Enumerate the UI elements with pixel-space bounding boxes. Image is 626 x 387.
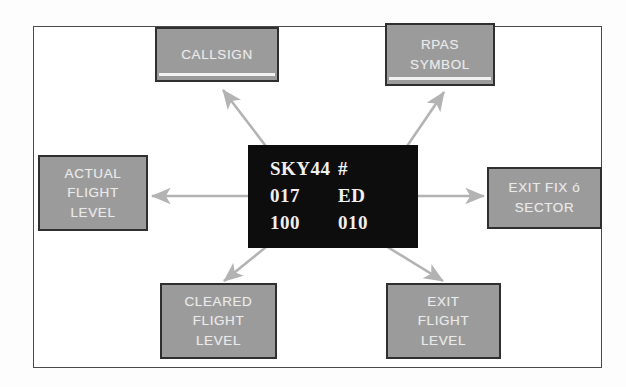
radar-exit-flight-level-value: 010 xyxy=(338,210,398,237)
callout-actual-fl-line-1: ACTUAL xyxy=(65,164,122,184)
radar-exit-fix-sector-value: ED xyxy=(338,183,398,210)
radar-label-row-1: SKY44 # xyxy=(248,156,418,183)
callout-cleared-fl-line-3: LEVEL xyxy=(196,331,241,351)
callout-exit-fix-line-2: SECTOR xyxy=(515,198,575,218)
callout-rpas-symbol[interactable]: RPAS SYMBOL xyxy=(385,23,495,86)
callout-exit-fix-sector[interactable]: EXIT FIX ó SECTOR xyxy=(487,167,602,229)
callout-exit-flight-level[interactable]: EXIT FLIGHT LEVEL xyxy=(386,283,501,359)
callout-exit-fl-line-3: LEVEL xyxy=(421,331,466,351)
callout-exit-fix-line-1: EXIT FIX ó xyxy=(509,178,581,198)
radar-actual-flight-level-value: 017 xyxy=(270,183,338,210)
radar-rpas-symbol-value: # xyxy=(338,156,398,183)
callout-callsign-line-1: CALLSIGN xyxy=(181,45,253,65)
callout-callsign[interactable]: CALLSIGN xyxy=(155,27,279,82)
radar-label-row-3: 100 010 xyxy=(248,210,418,237)
callout-cleared-fl-line-2: FLIGHT xyxy=(193,311,245,331)
callout-actual-flight-level[interactable]: ACTUAL FLIGHT LEVEL xyxy=(38,155,148,231)
callout-exit-fl-line-1: EXIT xyxy=(427,292,459,312)
callout-cleared-fl-line-1: CLEARED xyxy=(185,292,253,312)
callout-actual-fl-line-3: LEVEL xyxy=(70,203,115,223)
diagram-canvas: CALLSIGN RPAS SYMBOL ACTUAL FLIGHT LEVEL… xyxy=(0,0,626,387)
radar-callsign-value: SKY44 xyxy=(270,156,338,183)
radar-label-block[interactable]: SKY44 # 017 ED 100 010 xyxy=(248,145,418,248)
callout-rpas-line-1: RPAS xyxy=(421,35,459,55)
callout-exit-fl-line-2: FLIGHT xyxy=(418,311,470,331)
callout-cleared-flight-level[interactable]: CLEARED FLIGHT LEVEL xyxy=(160,283,277,359)
callout-actual-fl-line-2: FLIGHT xyxy=(67,183,119,203)
radar-cleared-flight-level-value: 100 xyxy=(270,210,338,237)
callout-rpas-line-2: SYMBOL xyxy=(410,55,470,75)
radar-label-row-2: 017 ED xyxy=(248,183,418,210)
